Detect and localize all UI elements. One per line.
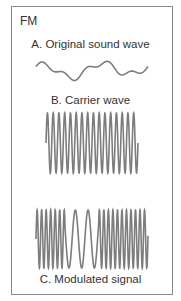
modulated-signal-wave: [36, 210, 148, 268]
waveforms: [0, 0, 181, 301]
carrier-wave: [46, 113, 138, 173]
original-sound-wave: [36, 61, 148, 80]
